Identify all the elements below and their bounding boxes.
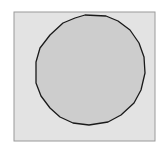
diagram-canvas (0, 0, 166, 158)
